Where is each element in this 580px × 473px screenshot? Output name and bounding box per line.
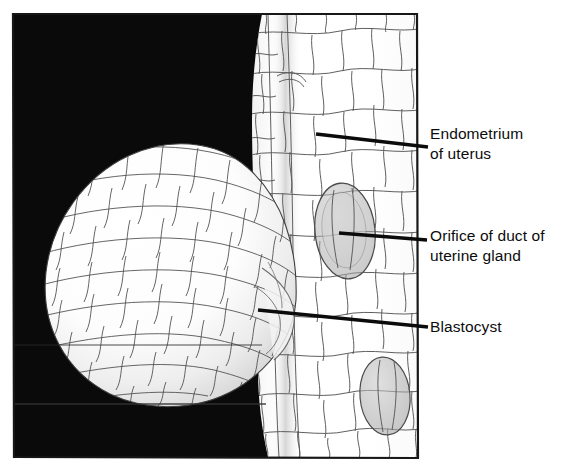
label-orifice-line-1: Orifice of duct of bbox=[430, 227, 545, 244]
label-endometrium-line-2: of uterus bbox=[430, 145, 491, 162]
illustration-canvas: Endometrium of uterus Orifice of duct of… bbox=[0, 0, 580, 473]
label-blastocyst-line-1: Blastocyst bbox=[430, 318, 502, 335]
anatomical-figure: Endometrium of uterus Orifice of duct of… bbox=[0, 0, 580, 473]
label-endometrium-line-1: Endometrium bbox=[430, 125, 523, 142]
labels: Endometrium of uterus Orifice of duct of… bbox=[430, 125, 545, 335]
label-orifice-line-2: uterine gland bbox=[430, 247, 521, 264]
